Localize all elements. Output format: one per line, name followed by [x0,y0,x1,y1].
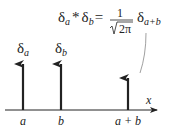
axis-label-x: x [145,93,152,107]
svg-text:δa*δb=: δa*δb= [58,9,103,27]
formula-convolution-op: * [72,9,80,25]
tick-label-a-plus-b: a + b [115,114,141,128]
label-delta-b: δb [55,40,67,58]
formula-delta-sum: δ [137,9,144,25]
convolution-formula: δa*δb= 1 2π δa+b [58,6,161,36]
svg-text:δa+b: δa+b [137,9,161,27]
tick-label-b: b [58,114,64,128]
formula-sub-a: a [65,16,70,27]
label-delta-a: δa [17,40,29,58]
fraction-denominator: 2π [119,22,131,36]
tick-label-a: a [20,114,26,128]
delta-convolution-diagram: δa*δb= 1 2π δa+b δa δb x a b a + b [0,0,170,132]
fraction-numerator: 1 [117,6,123,20]
formula-sub-sum: a+b [144,16,161,27]
formula-delta-b: δ [82,9,89,25]
formula-equals: = [95,9,103,25]
leader-line [140,33,146,73]
formula-delta-a: δ [58,9,65,25]
formula-sub-b: b [89,16,94,27]
